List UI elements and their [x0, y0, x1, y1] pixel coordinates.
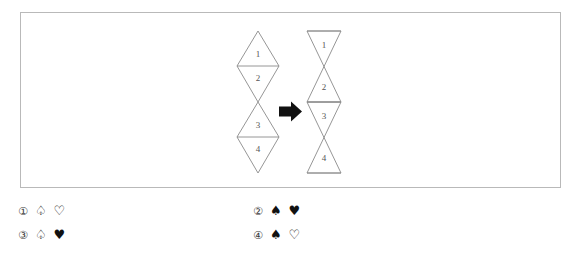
heart-filled-icon: ♥	[54, 228, 66, 241]
left-upper-diamond-outline	[237, 31, 279, 102]
heart-outline-icon: ♡	[54, 204, 66, 217]
left-cell-label-4: 4	[256, 144, 261, 154]
right-cell-label-3: 3	[322, 111, 327, 121]
option-3[interactable]: ③ ♤ ♥	[18, 224, 65, 246]
right-figure-group: 1 2 3 4	[307, 31, 341, 173]
right-cell-label-1: 1	[322, 40, 327, 50]
right-cell-label-2: 2	[322, 82, 327, 92]
arrow-right-icon	[279, 102, 302, 122]
option-2-index: ②	[253, 206, 263, 217]
heart-filled-icon: ♥	[289, 204, 301, 217]
option-4-index: ④	[253, 230, 263, 241]
option-row-1: ① ♤ ♡ ② ♠ ♥	[0, 200, 580, 224]
heart-outline-icon: ♡	[289, 228, 301, 241]
figure-svg: 1 2 3 4 1 2 3 4	[21, 13, 562, 189]
option-4[interactable]: ④ ♠ ♡	[253, 224, 300, 246]
right-cell-label-4: 4	[322, 153, 327, 163]
transformation-arrow	[279, 102, 302, 122]
spade-outline-icon: ♤	[35, 204, 47, 217]
answer-options-area: ① ♤ ♡ ② ♠ ♥ ③ ♤ ♥ ④ ♠ ♡	[0, 196, 580, 256]
left-figure-group: 1 2 3 4	[237, 31, 279, 173]
left-cell-label-3: 3	[256, 120, 261, 130]
option-1[interactable]: ① ♤ ♡	[18, 200, 65, 222]
option-1-index: ①	[18, 206, 28, 217]
spade-filled-icon: ♠	[270, 204, 282, 217]
figure-stage: 1 2 3 4 1 2 3 4	[21, 13, 562, 189]
spade-filled-icon: ♠	[270, 228, 282, 241]
figure-sequence-panel: 1 2 3 4 1 2 3 4	[20, 12, 561, 188]
spade-outline-icon: ♤	[35, 228, 47, 241]
left-cell-label-1: 1	[256, 49, 261, 59]
option-row-2: ③ ♤ ♥ ④ ♠ ♡	[0, 224, 580, 248]
left-lower-diamond-outline	[237, 102, 279, 173]
option-2[interactable]: ② ♠ ♥	[253, 200, 300, 222]
option-3-index: ③	[18, 230, 28, 241]
left-cell-label-2: 2	[256, 73, 261, 83]
